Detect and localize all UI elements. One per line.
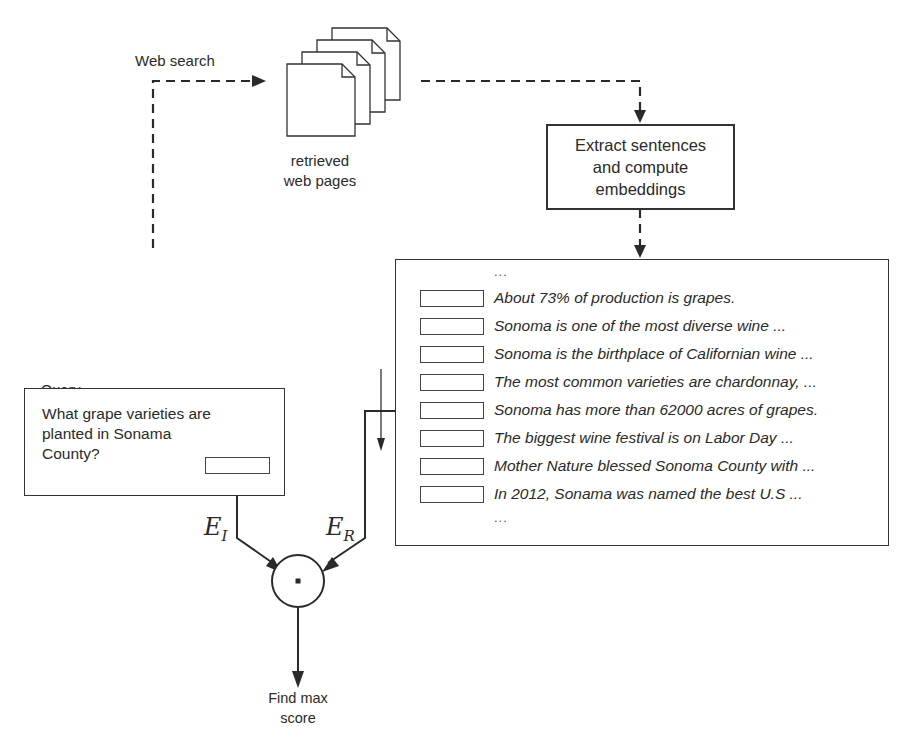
sentence-embedding-slot	[420, 290, 484, 307]
sentence-item: The biggest wine festival is on Labor Da…	[494, 429, 794, 447]
sentences-bottom-ellipsis: ...	[494, 510, 508, 525]
sentence-embedding-slot	[420, 318, 484, 335]
extract-to-sentences-arrow	[634, 209, 646, 258]
retrieved-pages-line2: web pages	[265, 171, 375, 191]
extract-line2: and compute	[548, 156, 733, 178]
sentence-embedding-slot	[420, 346, 484, 363]
find-max-line1: Find max	[248, 688, 348, 708]
sentence-item: Sonoma is the birthplace of Californian …	[494, 345, 814, 363]
e-retrieved-label: ER	[326, 513, 355, 545]
sentence-embedding-slot	[420, 458, 484, 475]
find-max-score-label: Find max score	[248, 688, 348, 728]
extract-line3: embeddings	[548, 178, 733, 200]
query-line2: planted in Sonama	[42, 424, 211, 444]
web-search-arrow	[153, 75, 266, 248]
sentence-item: Sonoma has more than 62000 acres of grap…	[494, 401, 818, 419]
sentence-item: Sonoma is one of the most diverse wine .…	[494, 317, 786, 335]
document-stack-icon	[287, 28, 400, 136]
dot-product-node	[272, 555, 324, 607]
web-search-label: Web search	[135, 52, 215, 69]
sentence-item: About 73% of production is grapes.	[494, 289, 735, 307]
sentence-embedding-slot	[420, 374, 484, 391]
sentence-embedding-slot	[420, 430, 484, 447]
find-max-arrow	[292, 607, 304, 688]
retrieved-pages-label: retrieved web pages	[265, 151, 375, 191]
sentence-item: Mother Nature blessed Sonoma County with…	[494, 457, 815, 475]
query-line3: County?	[42, 444, 211, 464]
pages-to-extract-arrow	[421, 81, 646, 123]
sentence-embedding-slot-selected	[420, 402, 484, 419]
extract-line1: Extract sentences	[548, 134, 733, 156]
query-embedding-slot	[205, 457, 270, 474]
sentence-item: The most common varieties are chardonnay…	[494, 373, 817, 391]
sentence-item: In 2012, Sonama was named the best U.S .…	[494, 485, 802, 503]
query-line1: What grape varieties are	[42, 404, 211, 424]
query-box: What grape varieties are planted in Sona…	[24, 388, 285, 496]
find-max-line2: score	[248, 708, 348, 728]
e-image-label: EI	[204, 513, 227, 545]
sentence-embedding-slot	[420, 486, 484, 503]
extract-embeddings-box: Extract sentences and compute embeddings	[546, 124, 735, 210]
retrieved-pages-line1: retrieved	[265, 151, 375, 171]
sentences-top-ellipsis: ...	[494, 264, 508, 279]
